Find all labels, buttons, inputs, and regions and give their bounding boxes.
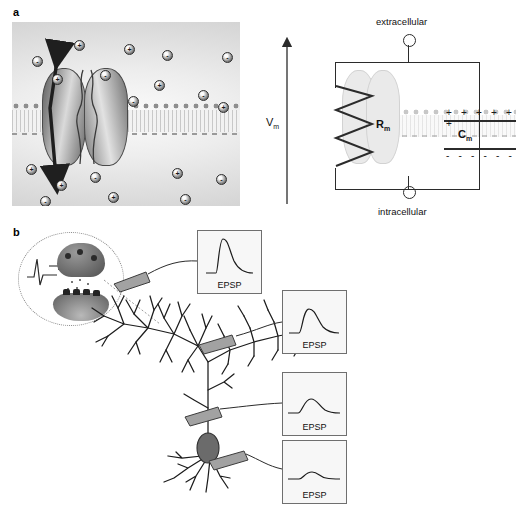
epsp-caption: EPSP [283,490,346,500]
cation: + [218,102,229,113]
ion-channel-membrane-illustration: ++----++--+++--++-- [12,22,240,206]
cation: + [74,40,85,51]
cation: + [108,192,119,203]
anion: - [100,70,111,81]
anion: - [40,196,51,206]
wire-resistor-top-drop [335,62,336,88]
epsp-trace-distal-tuft [198,233,259,279]
extracellular-terminal [403,34,416,47]
wire-resistor-bottom-drop [335,168,336,190]
epsp-caption: EPSP [198,280,261,290]
epsp-box-somatic: EPSP [282,440,347,504]
extracellular-label: extracellular [376,16,427,27]
epsp-caption: EPSP [283,340,346,350]
epsp-trace-somatic [283,449,344,495]
epsp-box-distal-tuft: EPSP [197,230,262,294]
intracellular-label: intracellular [378,206,427,217]
epsp-trace-mid-apical [283,295,344,341]
epsp-box-mid-apical: EPSP [282,290,347,354]
anion: - [90,172,101,183]
membrane-voltage-arrow [280,38,294,208]
wire-bottom-stub [408,176,409,190]
epsp-box-proximal: EPSP [282,372,347,436]
anion: - [198,90,209,101]
wire-top-rail [335,62,480,63]
anion: - [162,50,173,61]
panel-label-a: a [13,6,19,18]
cation: + [26,164,37,175]
equivalent-rc-circuit: extracellular intracellular Vm [258,8,516,220]
wire-top-stub [408,45,409,62]
cation: + [56,180,67,191]
anion: - [222,52,233,63]
cation: + [52,74,63,85]
vm-label: Vm [266,116,279,130]
epsp-caption: EPSP [283,422,346,432]
capacitor-negative-charges: - - - - - - [446,150,515,161]
cation: + [172,168,183,179]
capacitor-label: Cm [458,128,472,142]
epsp-trace-proximal [283,379,344,425]
capacitor-positive-charges: + + + + + + [446,107,516,129]
cation: + [124,44,135,55]
cation: + [154,80,165,91]
resistor-label: Rm [376,118,390,132]
anion: - [32,56,43,67]
panel-b-neuron-epsp: b [0,224,522,510]
anion: - [180,194,191,205]
figure-root: a ++--- [0,0,522,510]
anion: - [216,174,227,185]
anion: - [128,96,139,107]
intracellular-terminal [403,186,416,199]
ion-layer: ++----++--+++--++-- [12,22,240,206]
